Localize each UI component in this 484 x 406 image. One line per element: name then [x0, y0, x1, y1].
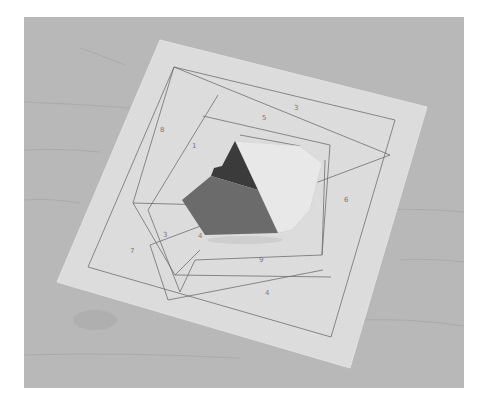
svg-text:6: 6: [344, 196, 349, 204]
svg-text:3: 3: [163, 231, 167, 239]
svg-text:5: 5: [262, 114, 266, 122]
svg-text:4: 4: [198, 232, 203, 240]
svg-text:9: 9: [259, 256, 263, 264]
svg-text:7: 7: [130, 247, 134, 255]
svg-text:4: 4: [265, 289, 270, 297]
wood-knot: [73, 310, 117, 330]
quilt-block-photo: 8 5 3 1 6 2 3 7 9 4 4: [0, 0, 484, 406]
svg-text:1: 1: [192, 142, 196, 150]
svg-text:8: 8: [160, 126, 164, 134]
fabric-shadow: [207, 236, 283, 244]
svg-text:3: 3: [294, 104, 298, 112]
